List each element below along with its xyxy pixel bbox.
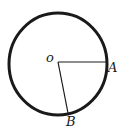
label-point-b: B [65,114,76,129]
label-center-o: o [46,50,54,65]
radius-ob [58,62,68,113]
label-point-a: A [107,60,117,75]
circle-diagram: o A B [0,0,124,130]
